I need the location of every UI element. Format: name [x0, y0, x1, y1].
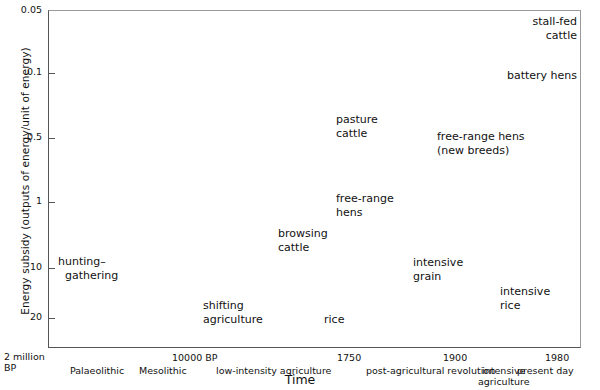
- data-label-browsing-cattle: browsingcattle: [278, 227, 328, 254]
- data-label-line: rice: [324, 313, 344, 327]
- x-year-1750: 1750: [337, 352, 361, 363]
- origin-label-line: 2 million: [4, 351, 45, 362]
- data-label-line: pasture: [336, 113, 378, 127]
- data-label-line: hunting–: [58, 255, 118, 269]
- x-year-1980: 1980: [545, 352, 569, 363]
- data-label-line: intensive: [413, 256, 463, 270]
- data-label-line: intensive: [500, 285, 550, 299]
- data-label-line: hens: [336, 206, 394, 220]
- data-label-hunting-gathering: hunting– gathering: [58, 255, 118, 282]
- data-label-line: free-range: [336, 192, 394, 206]
- data-label-line: free-range hens: [437, 130, 525, 144]
- data-label-line: cattle: [278, 241, 328, 255]
- data-label-free-range-hens: free-rangehens: [336, 192, 394, 219]
- data-label-line: battery hens: [507, 69, 577, 83]
- y-tick-label: 10: [0, 261, 42, 272]
- data-label-line: agriculture: [203, 313, 263, 327]
- y-tick-label: 20: [0, 311, 42, 322]
- data-label-intensive-grain: intensivegrain: [413, 256, 463, 283]
- data-label-line: (new breeds): [437, 144, 525, 158]
- data-label-line: cattle: [533, 29, 578, 43]
- y-tick-label: 0.1: [0, 66, 42, 77]
- data-label-line: rice: [500, 299, 550, 313]
- y-tick-label: 0.05: [0, 4, 42, 15]
- data-label-line: gathering: [58, 269, 118, 283]
- y-tick-label: 1: [0, 195, 42, 206]
- data-label-free-range-hens-new-breeds: free-range hens(new breeds): [437, 130, 525, 157]
- energy-subsidy-chart: Energy subsidy (outputs of energy/unit o…: [0, 0, 600, 390]
- data-label-rice: rice: [324, 313, 344, 327]
- y-tick-label: 0.5: [0, 131, 42, 142]
- x-axis-title: Time: [0, 372, 600, 387]
- x-year-10000-bp: 10000 BP: [172, 352, 218, 363]
- data-label-line: grain: [413, 270, 463, 284]
- x-axis-origin-label: 2 millionBP: [4, 351, 45, 373]
- data-label-pasture-cattle: pasturecattle: [336, 113, 378, 140]
- data-label-intensive-rice: intensiverice: [500, 285, 550, 312]
- data-label-line: cattle: [336, 127, 378, 141]
- x-year-1900: 1900: [443, 352, 467, 363]
- data-label-battery-hens: battery hens: [507, 69, 577, 83]
- data-label-stall-fed-cattle: stall-fedcattle: [533, 15, 578, 42]
- data-label-shifting-agriculture: shiftingagriculture: [203, 299, 263, 326]
- data-label-line: shifting: [203, 299, 263, 313]
- data-label-line: browsing: [278, 227, 328, 241]
- data-label-line: stall-fed: [533, 15, 578, 29]
